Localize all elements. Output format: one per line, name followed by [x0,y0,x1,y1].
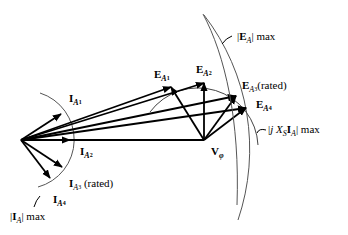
label-ia1: IA1 [69,93,82,107]
ia3-arrow [21,140,62,167]
label-ia-max: |IA| max [10,211,45,225]
label-ea2: EA2 [196,64,212,78]
label-ia3: IA3 (rated) [69,178,113,192]
label-jxs-max: |j XSIA| max [268,124,320,138]
label-ea4: EA4 [256,99,272,113]
ea-max-boundary [203,14,237,205]
ia-max-leader [34,196,40,207]
jxs-max-leader [257,129,266,133]
label-ea-max: |EA| max [237,31,275,45]
ea-max-leader [222,36,232,44]
ea-max-arc [204,15,250,220]
ea2-arrow [21,83,204,140]
label-ea1: EA1 [154,69,170,83]
label-ea3: EA3(rated) [242,80,287,94]
label-v-phi: Vφ [211,146,224,160]
jxs1-arrow [171,87,204,140]
ea4-arrow [21,108,246,140]
ia4-arrow [21,140,50,178]
label-ia2: IA2 [80,146,93,160]
label-ia4: IA4 [53,194,66,208]
